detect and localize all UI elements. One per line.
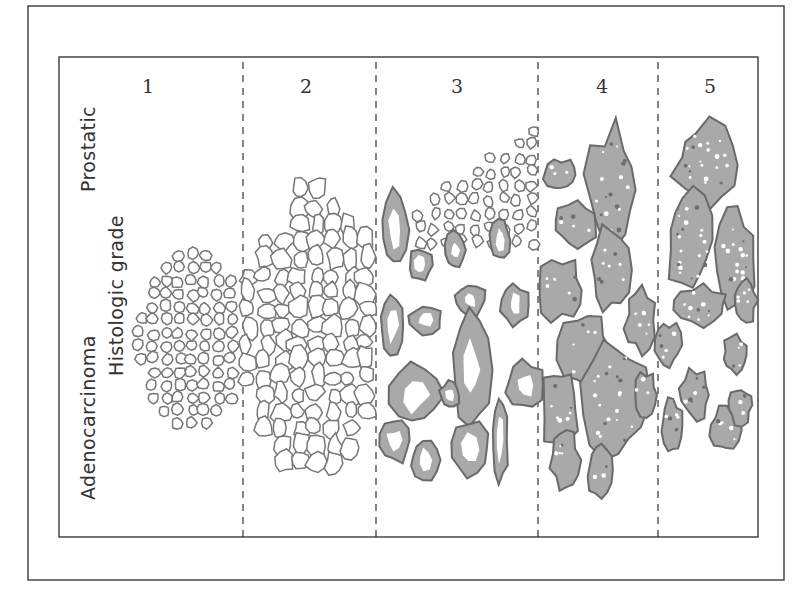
gland	[185, 354, 197, 364]
speck	[605, 465, 608, 468]
speck	[704, 177, 709, 182]
speck	[680, 250, 683, 253]
speck	[623, 357, 626, 360]
gland	[197, 378, 209, 389]
grade-3-glands	[379, 127, 543, 485]
speck	[688, 397, 693, 402]
gland	[343, 420, 360, 436]
gland	[188, 262, 200, 274]
gland	[213, 341, 225, 352]
gland	[211, 262, 222, 274]
title-adenocarcinoma: Adenocarcinoma	[77, 335, 99, 500]
gland	[343, 226, 358, 250]
speck	[699, 161, 701, 163]
speck	[725, 164, 729, 168]
speck	[699, 234, 702, 237]
speck	[553, 172, 556, 175]
gland	[441, 182, 451, 191]
gland	[427, 238, 437, 250]
gland	[161, 368, 173, 378]
speck	[600, 177, 604, 181]
gland	[528, 165, 538, 176]
gland	[162, 393, 172, 404]
gland	[486, 169, 495, 179]
speck	[634, 312, 637, 315]
gland	[238, 372, 254, 386]
gland	[226, 302, 238, 313]
tumor-sheet	[588, 444, 613, 499]
speck	[593, 331, 596, 334]
speck	[719, 140, 721, 142]
speck	[604, 211, 609, 216]
speck	[721, 244, 725, 248]
speck	[559, 452, 561, 454]
speck	[616, 419, 618, 421]
speck	[668, 416, 672, 420]
tumor-sheet	[550, 430, 582, 491]
speck	[573, 344, 575, 346]
grade-4-sheets	[540, 118, 657, 499]
speck	[581, 323, 585, 327]
grade-label-3: 3	[451, 75, 463, 97]
gland	[471, 210, 481, 221]
speck	[708, 314, 710, 316]
grade-5-sheets	[655, 117, 759, 452]
speck	[593, 393, 597, 397]
gland	[293, 178, 308, 197]
speck	[691, 278, 693, 280]
speck	[732, 364, 735, 367]
speck	[678, 265, 683, 270]
speck	[566, 417, 570, 421]
speck	[684, 220, 689, 225]
gland	[199, 303, 210, 315]
gland	[324, 229, 341, 249]
speck	[622, 278, 625, 281]
speck	[573, 276, 576, 279]
speck	[554, 451, 558, 455]
title-prostatic: Prostatic	[77, 106, 99, 192]
speck	[738, 347, 740, 349]
speck	[605, 372, 609, 376]
speck	[696, 308, 700, 312]
speck	[597, 277, 601, 281]
gland	[432, 208, 440, 220]
gland	[132, 339, 143, 351]
speck	[559, 216, 563, 220]
speck	[684, 164, 688, 168]
speck	[703, 263, 708, 268]
gland	[214, 328, 226, 340]
speck	[698, 254, 701, 257]
speck	[569, 412, 572, 415]
gland	[172, 403, 184, 415]
speck	[642, 311, 647, 316]
gland	[186, 341, 197, 351]
gland	[225, 393, 238, 404]
gland	[174, 302, 185, 313]
speck	[743, 291, 746, 294]
gland	[511, 194, 521, 206]
grade-labels: 1 2 3 4 5	[142, 75, 716, 97]
tumor-sheet	[540, 260, 582, 323]
gland	[161, 262, 172, 274]
gland	[174, 313, 184, 324]
gland	[223, 352, 235, 363]
tumor-sheet	[635, 372, 657, 418]
speck	[572, 225, 575, 228]
speck	[677, 263, 680, 266]
speck	[571, 214, 576, 219]
grade-label-5: 5	[704, 75, 716, 97]
gland	[515, 139, 525, 148]
speck	[702, 385, 706, 389]
gland	[270, 363, 290, 383]
speck	[677, 208, 679, 210]
speck	[743, 394, 745, 396]
gland	[148, 394, 158, 404]
speck	[703, 240, 707, 244]
gland	[213, 382, 225, 391]
gland	[292, 319, 310, 338]
speck	[693, 135, 696, 138]
gland	[226, 275, 237, 287]
speck	[746, 300, 749, 303]
speck	[706, 142, 709, 145]
gland	[256, 350, 269, 369]
